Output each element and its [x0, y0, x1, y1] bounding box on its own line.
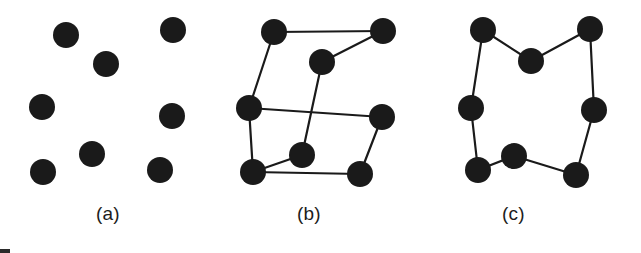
particle-node [159, 103, 185, 129]
figure-container: (a) (b) (c) [0, 0, 641, 253]
particle-node [458, 95, 484, 121]
particle-node [30, 159, 56, 185]
particle-bond [274, 31, 383, 32]
particle-node [347, 161, 373, 187]
panel-b-group [236, 18, 396, 187]
particle-node [93, 51, 119, 77]
panel-c-group [458, 16, 607, 188]
particle-node [370, 18, 396, 44]
particle-node [236, 95, 262, 121]
particle-bond [302, 62, 322, 155]
particle-node [369, 104, 395, 130]
particle-node [470, 17, 496, 43]
panel-a-group [29, 17, 186, 185]
page-edge-artifact [0, 249, 10, 253]
panel-a-caption: (a) [96, 203, 120, 225]
panel-c-caption: (c) [502, 203, 525, 225]
particle-node [240, 159, 266, 185]
particle-node [261, 19, 287, 45]
particle-node [147, 157, 173, 183]
particle-node [309, 49, 335, 75]
particle-node [29, 94, 55, 120]
particle-node [518, 48, 544, 74]
particle-node [289, 142, 315, 168]
particle-bond [249, 108, 382, 117]
particle-node [563, 162, 589, 188]
particle-node [501, 143, 527, 169]
particle-node [577, 16, 603, 42]
particle-node [79, 141, 105, 167]
particle-node [53, 22, 79, 48]
particle-node [160, 17, 186, 43]
particle-bond [253, 172, 360, 174]
panel-b-caption: (b) [297, 203, 321, 225]
particle-node [581, 97, 607, 123]
particle-node [465, 157, 491, 183]
